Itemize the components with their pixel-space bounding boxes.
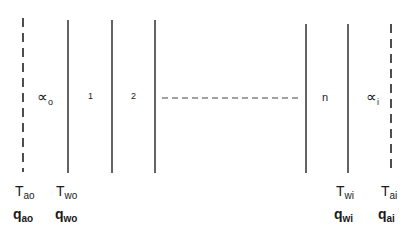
layer-2-label: 2 bbox=[131, 91, 136, 101]
temp-wall-inside: Twi bbox=[336, 183, 354, 201]
inner-heat-transfer-coefficient: ∝i bbox=[366, 88, 379, 107]
flux-wall-inside: qwi bbox=[334, 206, 353, 224]
flux-wall-outside: qwo bbox=[55, 206, 77, 224]
temp-air-inside: Tai bbox=[381, 183, 397, 201]
outer-heat-transfer-coefficient: ∝o bbox=[37, 88, 53, 107]
layer-n-label: n bbox=[322, 91, 328, 103]
temp-wall-outside: Two bbox=[56, 183, 77, 201]
flux-air-inside: qai bbox=[378, 206, 395, 224]
layer-1-label: 1 bbox=[88, 91, 93, 101]
flux-air-outside: qao bbox=[13, 206, 33, 224]
temp-air-outside: Tao bbox=[15, 183, 35, 201]
wall-diagram bbox=[0, 0, 411, 238]
